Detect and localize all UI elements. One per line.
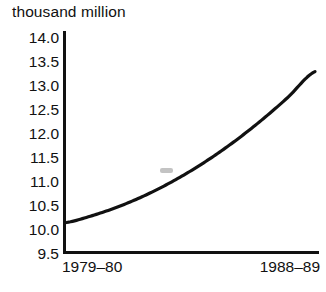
plot-area: 14.0 13.5 13.0 12.5 12.0 11.5 11.0 10.5 … [0, 0, 326, 292]
series-line-thousand-million [65, 72, 316, 223]
data-curve [0, 0, 326, 292]
scan-artifact [160, 168, 173, 173]
chart-figure: thousand million 14.0 13.5 13.0 12.5 12.… [0, 0, 326, 292]
